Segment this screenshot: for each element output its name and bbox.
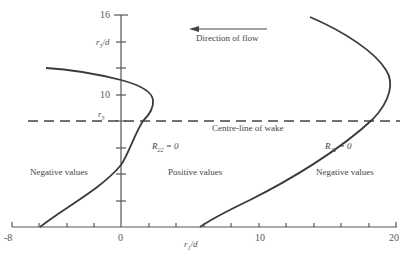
flow-direction-label: Direction of flow (196, 34, 258, 43)
y-axis-label: r3/d (96, 38, 110, 49)
r3-marker-label: r3 (98, 110, 105, 121)
y-tick-10: 10 (100, 90, 110, 100)
region-left-label: Negative values (30, 168, 88, 177)
region-right-label: Negative values (316, 168, 374, 177)
flow-arrow-icon (189, 26, 267, 32)
x-tick-10: 10 (255, 233, 265, 243)
region-middle-label: Positive values (168, 168, 222, 177)
x-tick-0: 0 (118, 233, 123, 243)
x-tick-20: 20 (389, 233, 399, 243)
contour-left-label: R22 = 0 (152, 142, 179, 153)
contour-right-label: R22 = 0 (325, 142, 352, 153)
centre-line-label: Centre-line of wake (212, 124, 283, 133)
outer-contour-curve (200, 17, 390, 227)
y-tick-16: 16 (100, 10, 110, 20)
x-tick-neg8: -8 (4, 233, 12, 243)
x-axis-label: r1/d (184, 240, 198, 251)
inner-contour-curve (40, 68, 153, 227)
